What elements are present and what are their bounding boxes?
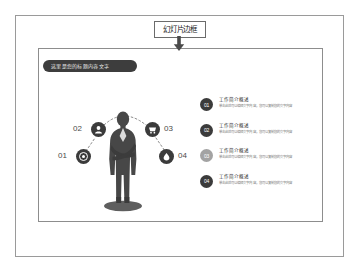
list-item-title: 工作简介概述 — [219, 123, 292, 129]
diagram-node-03-number: 03 — [164, 125, 173, 133]
list-item[interactable]: 02 工作简介概述 单击此处可以编辑文字内容，您可以复制您的文字内容 — [200, 123, 318, 140]
diagram-node-01[interactable] — [76, 149, 91, 164]
list-item-title: 工作简介概述 — [219, 174, 292, 180]
list-item-description: 单击此处可以编辑文字内容，您可以复制您的文字内容 — [219, 104, 292, 108]
list-item-description: 单击此处可以编辑文字内容，您可以复制您的文字内容 — [219, 181, 292, 185]
down-arrow-icon — [173, 36, 185, 51]
list-item-badge: 03 — [200, 149, 213, 162]
slide-frame[interactable]: 这里是您的标题内容文字 — [38, 48, 323, 222]
list-item-badge: 04 — [200, 175, 213, 188]
diagram-node-02[interactable] — [91, 122, 106, 137]
diagram-node-01-number: 01 — [58, 152, 67, 160]
list-item-text: 工作简介概述 单击此处可以编辑文字内容，您可以复制您的文字内容 — [219, 148, 292, 160]
list-item-badge: 02 — [200, 124, 213, 137]
list-item-text: 工作简介概述 单击此处可以编辑文字内容，您可以复制您的文字内容 — [219, 174, 292, 186]
list-item-description: 单击此处可以编辑文字内容，您可以复制您的文字内容 — [219, 155, 292, 159]
diagram-node-04[interactable] — [159, 149, 174, 164]
diagram-node-04-number: 04 — [178, 152, 187, 160]
content-list: 01 工作简介概述 单击此处可以编辑文字内容，您可以复制您的文字内容 02 工作… — [200, 97, 318, 199]
list-item-description: 单击此处可以编辑文字内容，您可以复制您的文字内容 — [219, 130, 292, 134]
diagram-node-03[interactable] — [145, 122, 160, 137]
target-icon — [79, 152, 88, 161]
list-item-badge: 01 — [200, 98, 213, 111]
list-item[interactable]: 01 工作简介概述 单击此处可以编辑文字内容，您可以复制您的文字内容 — [200, 97, 318, 114]
droplet-icon — [162, 152, 171, 161]
businessman-silhouette-icon — [102, 109, 144, 213]
list-item-title: 工作简介概述 — [219, 148, 292, 154]
slide-title-text: 这里是您的标题内容文字 — [51, 64, 109, 69]
list-item[interactable]: 04 工作简介概述 单击此处可以编辑文字内容，您可以复制您的文字内容 — [200, 174, 318, 191]
diagram-node-02-number: 02 — [73, 125, 82, 133]
annotation-label: 幻灯片边框 — [163, 26, 197, 34]
slide-title-pill[interactable]: 这里是您的标题内容文字 — [43, 60, 137, 72]
list-item[interactable]: 03 工作简介概述 单击此处可以编辑文字内容，您可以复制您的文字内容 — [200, 148, 318, 165]
list-item-text: 工作简介概述 单击此处可以编辑文字内容，您可以复制您的文字内容 — [219, 97, 292, 109]
list-item-text: 工作简介概述 单击此处可以编辑文字内容，您可以复制您的文字内容 — [219, 123, 292, 135]
diagram-area: 01 02 03 — [47, 87, 195, 215]
cart-icon — [148, 125, 157, 134]
list-item-title: 工作简介概述 — [219, 97, 292, 103]
user-icon — [94, 125, 103, 134]
